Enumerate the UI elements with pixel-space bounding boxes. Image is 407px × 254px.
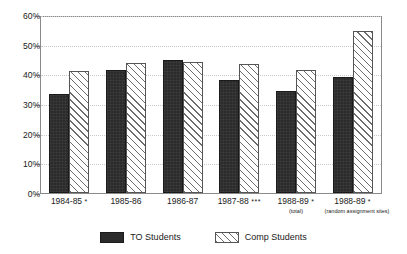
bar-to-students [163,60,183,193]
legend-label-to-students: TO Students [130,233,180,242]
legend-swatch-to-students-icon [100,232,124,243]
bar-group [273,17,319,193]
bar-group [46,17,92,193]
bar-comp-students [353,31,373,193]
x-axis-footnote-marker: * [82,198,88,205]
x-axis-category-label: 1987-88 *** [211,196,267,226]
y-axis: 0%10%20%30%40%50%60% [0,16,40,194]
x-axis-category-text: 1984-85 * [41,196,97,207]
x-axis-category-label: 1988-89 *(total) [268,196,324,226]
x-axis-category-label: 1985-86 [98,196,154,226]
legend-item-to-students: TO Students [100,232,180,243]
bar-to-students [276,91,296,193]
x-axis-category-text: 1985-86 [98,196,154,206]
x-axis-category-text: 1987-88 *** [211,196,267,207]
legend-swatch-comp-students-icon [215,232,239,243]
y-tick-mark [35,194,40,195]
bar-to-students [106,70,126,193]
x-axis-category-sublabel: (random assignment sites) [325,207,381,215]
bar-group [216,17,262,193]
x-axis-category-text: 1986-87 [155,196,211,206]
x-axis-category-text: 1988-89 * [325,196,381,207]
legend-label-comp-students: Comp Students [245,233,307,242]
bar-comp-students [296,70,316,193]
x-axis-footnote-marker: *** [249,198,261,205]
x-axis-category-label: 1984-85 * [41,196,97,226]
x-axis-footnote-marker: * [365,198,371,205]
bar-comp-students [239,64,259,193]
bar-groups [41,17,381,193]
legend-item-comp-students: Comp Students [215,232,307,243]
bar-comp-students [183,62,203,193]
bar-comp-students [69,71,89,193]
bar-to-students [219,80,239,193]
chart-legend: TO Students Comp Students [0,228,407,246]
x-axis-category-text: 1988-89 * [268,196,324,207]
bar-comp-students [126,63,146,193]
bar-group [330,17,376,193]
bar-group [160,17,206,193]
x-axis-labels: 1984-85 *1985-861986-871987-88 ***1988-8… [41,196,381,226]
bar-to-students [333,77,353,193]
x-axis-category-sublabel: (total) [268,207,324,215]
x-axis-footnote-marker: * [309,198,315,205]
x-axis-category-label: 1986-87 [155,196,211,226]
x-axis-category-label: 1988-89 *(random assignment sites) [325,196,381,226]
bar-group [103,17,149,193]
bar-chart: 0%10%20%30%40%50%60% 1984-85 *1985-86198… [0,0,407,254]
bar-to-students [49,94,69,193]
